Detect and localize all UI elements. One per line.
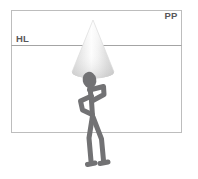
figure-left-leg: [89, 116, 93, 161]
diagram-canvas: PP HL: [0, 0, 198, 179]
perspective-diagram: PP HL: [0, 0, 198, 179]
figure-left-foot: [88, 163, 96, 165]
horizon-line-label: HL: [16, 33, 29, 44]
picture-plane-label: PP: [164, 10, 178, 21]
figure-right-foot: [100, 162, 108, 164]
